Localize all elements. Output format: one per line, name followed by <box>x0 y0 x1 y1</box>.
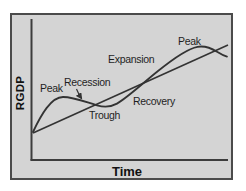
x-axis-label: Time <box>112 165 142 178</box>
y-axis-label: RGDP <box>15 76 27 110</box>
label-trough: Trough <box>89 110 120 121</box>
label-peak-first: Peak <box>40 83 63 94</box>
diagram-canvas <box>0 0 246 191</box>
label-peak-second: Peak <box>178 36 201 47</box>
label-expansion: Expansion <box>108 54 154 65</box>
label-recession: Recession <box>64 77 110 88</box>
business-cycle-figure: Peak Recession Trough Recovery Expansion… <box>0 0 246 191</box>
label-recovery: Recovery <box>133 96 175 107</box>
